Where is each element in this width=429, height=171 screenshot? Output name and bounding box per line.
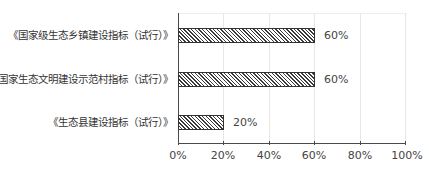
bar-value-3: 20% bbox=[233, 115, 257, 130]
bar-3 bbox=[178, 115, 224, 130]
bar-value-1: 60% bbox=[324, 28, 348, 43]
x-tick-60 bbox=[314, 141, 315, 145]
bar-2 bbox=[178, 72, 315, 87]
x-tick-20 bbox=[223, 141, 224, 145]
plot-top-border bbox=[178, 13, 405, 14]
x-tick-0 bbox=[178, 141, 179, 145]
category-label-3: 《生态县建设指标（试行）》 bbox=[48, 115, 173, 130]
bar-value-2: 60% bbox=[324, 72, 348, 87]
x-tick-80 bbox=[360, 141, 361, 145]
x-tick-label-40: 40% bbox=[257, 149, 281, 162]
gridline-80 bbox=[360, 13, 361, 144]
bar-1 bbox=[178, 28, 315, 43]
x-tick-label-100: 100% bbox=[391, 149, 422, 162]
category-label-2: 《国家生态文明建设示范村指标（试行）》 bbox=[0, 72, 173, 87]
category-label-1: 《国家级生态乡镇建设指标（试行）》 bbox=[8, 28, 173, 43]
x-tick-label-60: 60% bbox=[302, 149, 326, 162]
x-tick-label-0: 0% bbox=[169, 149, 186, 162]
x-tick-label-20: 20% bbox=[211, 149, 235, 162]
x-tick-label-80: 80% bbox=[348, 149, 372, 162]
x-axis bbox=[178, 143, 405, 144]
horizontal-bar-chart: 《国家级生态乡镇建设指标（试行）》 《国家生态文明建设示范村指标（试行）》 《生… bbox=[0, 0, 429, 171]
plot-area: 60% 60% 20% bbox=[178, 13, 405, 144]
x-tick-100 bbox=[405, 141, 406, 145]
x-tick-40 bbox=[269, 141, 270, 145]
gridline-100 bbox=[405, 13, 406, 144]
